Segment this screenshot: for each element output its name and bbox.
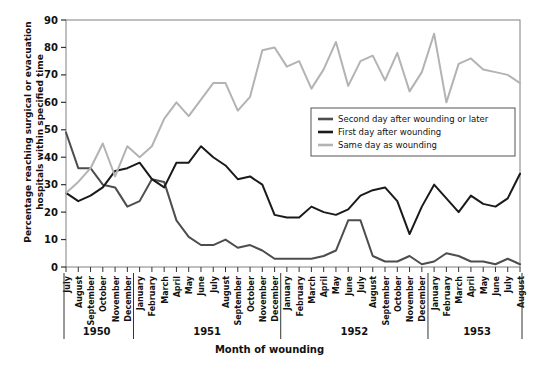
x-tick-label: November	[259, 276, 268, 322]
x-tick-label: November	[406, 276, 415, 322]
x-tick-label: October	[394, 276, 403, 312]
year-group-label: 1953	[463, 326, 491, 337]
x-tick-label: September	[234, 276, 243, 326]
x-tick-label: March	[455, 276, 464, 304]
x-tick-label: July	[210, 275, 219, 293]
x-tick-label: August	[75, 276, 84, 308]
year-group-label: 1952	[340, 326, 368, 337]
x-tick-label: June	[345, 275, 354, 296]
legend-label: Same day as wounding	[338, 140, 437, 150]
x-tick-label: March	[161, 276, 170, 304]
x-tick-label: December	[271, 276, 280, 322]
x-tick-label: January	[283, 275, 292, 311]
legend-label: Second day after wounding or later	[338, 114, 489, 124]
x-tick-label: September	[382, 276, 391, 326]
y-tick-label: 30	[44, 179, 58, 190]
chart-root: Percentage reaching surgical or evacuati…	[0, 0, 539, 365]
x-tick-label: October	[247, 276, 256, 312]
x-tick-label: March	[308, 276, 317, 304]
x-tick-label: February	[296, 275, 305, 316]
x-tick-label: October	[99, 276, 108, 312]
x-tick-label: August	[222, 276, 231, 308]
y-tick-label: 90	[44, 15, 58, 26]
y-tick-label: 70	[44, 69, 58, 80]
y-tick-label: 50	[44, 124, 58, 135]
x-tick-label: December	[124, 276, 133, 322]
x-tick-label: May	[332, 275, 341, 294]
y-tick-label: 0	[51, 262, 58, 273]
x-tick-label: January	[431, 275, 440, 311]
x-tick-label: June	[492, 275, 501, 296]
series-line	[66, 146, 520, 234]
year-group-label: 1951	[193, 326, 221, 337]
year-group-label: 1950	[83, 326, 111, 337]
x-tick-label: April	[320, 276, 329, 298]
x-tick-label: April	[173, 276, 182, 298]
x-tick-label: January	[136, 275, 145, 311]
x-tick-label: June	[197, 275, 206, 296]
x-tick-label: May	[185, 275, 194, 294]
x-tick-label: February	[148, 275, 157, 316]
x-tick-label: February	[443, 275, 452, 316]
x-tick-label: July	[504, 275, 513, 293]
x-tick-label: August	[517, 276, 526, 308]
legend-label: First day after wounding	[338, 127, 441, 137]
line-chart-svg: 0102030405060708090JulyAugustSeptemberOc…	[0, 0, 539, 365]
x-tick-label: August	[369, 276, 378, 308]
x-tick-label: December	[418, 276, 427, 322]
y-tick-label: 40	[44, 152, 58, 163]
y-tick-label: 10	[44, 234, 58, 245]
y-tick-label: 80	[44, 42, 58, 53]
x-tick-label: April	[467, 276, 476, 298]
y-tick-label: 20	[44, 207, 58, 218]
x-tick-label: July	[357, 275, 366, 293]
x-tick-label: May	[480, 275, 489, 294]
x-tick-label: November	[112, 276, 121, 322]
x-tick-label: September	[87, 276, 96, 326]
y-tick-label: 60	[44, 97, 58, 108]
